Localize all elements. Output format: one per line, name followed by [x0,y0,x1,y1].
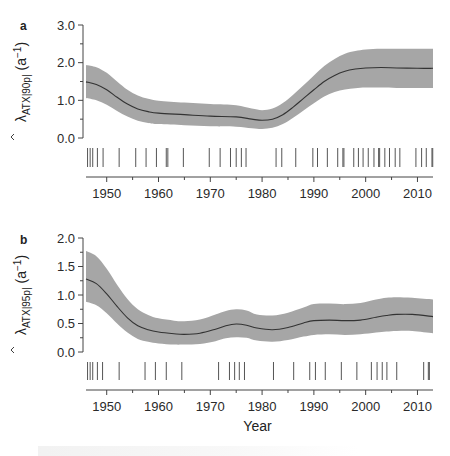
y-label-unit: (a [13,271,29,284]
y-tick-label: 2.0 [57,55,75,70]
y-tick-label: 0.0 [57,345,75,360]
y-tick-label: 3.0 [57,18,75,33]
y-label-subscript: ATX|95p| [21,287,32,328]
hat-accent-icon [11,134,14,140]
x-tick-label: 1950 [92,186,121,201]
x-tick-label: 1970 [196,399,225,414]
x-tick-label: 1960 [144,186,173,201]
y-label-subscript: ATX|90p| [21,74,32,115]
y-label-unit-exponent: −1 [12,259,23,271]
y-tick-label: 0.5 [57,316,75,331]
panel-letter: a [20,19,27,33]
y-tick-label: 1.0 [57,93,75,108]
confidence-band [86,49,433,129]
hat-accent-icon [11,347,14,353]
x-tick-label: 1950 [92,399,121,414]
x-tick-label: 1960 [144,399,173,414]
y-label-unit-close: ) [13,255,29,260]
x-tick-label: 2000 [351,186,380,201]
x-tick-label: 1990 [299,399,328,414]
y-tick-label: 1.0 [57,288,75,303]
y-tick-label: 1.5 [57,259,75,274]
panel-b: 0.00.51.01.52.01950196019701980199020002… [11,231,433,435]
x-tick-label: 2000 [351,399,380,414]
panel-a: 0.01.02.03.01950196019701980199020002010… [11,18,433,202]
panel-letter: b [20,233,27,247]
y-label-unit: (a [13,58,29,71]
x-tick-label: 1970 [196,186,225,201]
y-tick-label: 2.0 [57,231,75,246]
y-tick-label: 0.0 [57,131,75,146]
figure-caption-cutoff [38,446,358,456]
x-tick-label: 2010 [403,186,432,201]
lambda-hat-symbol: λ [13,115,29,122]
x-tick-label: 1990 [299,186,328,201]
x-tick-label: 1980 [248,399,277,414]
y-axis-label: λATX|90p|(a−1) [12,42,32,122]
x-axis-label: Year [243,418,272,434]
x-tick-label: 1980 [248,186,277,201]
y-label-unit-exponent: −1 [12,46,23,58]
y-label-unit-close: ) [13,42,29,47]
confidence-band [86,251,433,345]
y-axis-label: λATX|95p|(a−1) [12,255,32,335]
figure: 0.01.02.03.01950196019701980199020002010… [0,0,450,456]
lambda-hat-symbol: λ [13,328,29,335]
x-tick-label: 2010 [403,399,432,414]
